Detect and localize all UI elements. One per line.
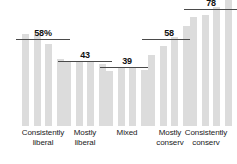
bar-group-mixed: 39: [106, 0, 148, 126]
bar-group-mostly-liberal: 43: [64, 0, 106, 126]
bar: [76, 61, 83, 126]
reference-line: [184, 9, 237, 10]
reference-line: [58, 61, 112, 62]
bar: [106, 71, 113, 126]
reference-line: [100, 67, 154, 68]
category-label-line2: liberal: [62, 138, 108, 148]
bar: [202, 15, 209, 127]
bar-group-mostly-conserv: 58: [148, 0, 190, 126]
bar-set: [64, 0, 106, 126]
category-label-consistently-conserv: Consistently conserv: [176, 128, 236, 148]
bar-set: [22, 0, 64, 126]
category-label-mixed: Mixed: [106, 128, 148, 138]
reference-line: [142, 39, 196, 40]
bar: [99, 64, 106, 126]
bar-group-consistently-liberal: 58%: [22, 0, 64, 126]
bar-set: [148, 0, 190, 126]
category-label-mostly-liberal: Mostly liberal: [62, 128, 108, 148]
value-label: 43: [64, 50, 106, 60]
bar: [148, 55, 155, 126]
bar: [160, 46, 167, 126]
bar: [190, 17, 197, 126]
value-label: 39: [106, 56, 148, 66]
bar: [34, 35, 41, 126]
category-label-line1: Consistently: [185, 128, 227, 137]
reference-line: [16, 39, 70, 40]
bar: [171, 37, 178, 126]
bar: [22, 34, 29, 126]
bar: [64, 61, 71, 126]
grouped-bar-chart: 58% 43 39: [0, 0, 237, 164]
bar: [225, 0, 232, 126]
category-label-line1: Mixed: [117, 128, 138, 137]
bar: [45, 44, 52, 126]
category-label-line2: conserv: [176, 138, 236, 148]
value-label: 58: [148, 28, 190, 38]
bar: [129, 67, 136, 126]
bar-group-consistently-conserv: 78: [190, 0, 232, 126]
value-label: 78: [190, 0, 232, 8]
bar: [87, 61, 94, 126]
bar-set: [190, 0, 232, 126]
value-label: 58%: [22, 28, 64, 38]
bar: [118, 67, 125, 126]
bar: [213, 7, 220, 126]
bar: [183, 26, 190, 126]
category-label-line1: Consistently: [22, 128, 64, 137]
category-label-line1: Mostly: [74, 128, 97, 137]
bar: [57, 59, 64, 126]
category-axis: Consistently liberal Mostly liberal Mixe…: [0, 128, 237, 164]
plot-area: 58% 43 39: [0, 0, 237, 126]
bar: [141, 70, 148, 126]
